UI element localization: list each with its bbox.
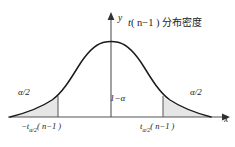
x-axis-label: x (224, 115, 228, 125)
y-axis-arrow-icon (108, 12, 115, 20)
x-tick-label-left: −tα/2( n−1 ) (22, 122, 61, 133)
title-cjk-text: 分布密度 (162, 17, 202, 28)
x-tick-label-right: tα/2( n−1 ) (140, 122, 174, 133)
chart-title: t( n−1 ) 分布密度 (128, 18, 202, 29)
left-tick-argument: ( n−1 ) (37, 121, 61, 131)
right-tail-area-label: α/2 (190, 88, 202, 97)
left-tail-area-label: α/2 (18, 88, 30, 97)
center-area-label: 1−α (110, 94, 125, 103)
left-tick-subscript: α/2 (29, 127, 37, 133)
right-tick-argument: ( n−1 ) (150, 121, 174, 131)
y-axis-label: y (118, 14, 122, 24)
title-parameter: ( n−1 ) (131, 17, 160, 28)
